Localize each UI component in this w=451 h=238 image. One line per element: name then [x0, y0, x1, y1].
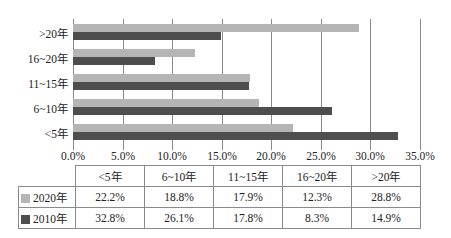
x-tick-label: 30.0% — [345, 150, 395, 162]
y-tick-label: >20年 — [0, 25, 68, 41]
bar-2010年 — [73, 132, 398, 140]
legend-2020: 2020年 — [19, 187, 76, 208]
table-cell: 22.2% — [76, 187, 145, 208]
y-tick-label: 16~20年 — [0, 50, 68, 66]
x-tick-label: 35.0% — [395, 150, 445, 162]
header-cell: <5年 — [76, 166, 145, 187]
blank-cell — [19, 166, 76, 187]
gridline — [321, 19, 322, 146]
table-cell: 17.9% — [214, 187, 283, 208]
x-tick-label: 20.0% — [246, 150, 296, 162]
table-cell: 32.8% — [76, 208, 145, 229]
x-tick-label: 5.0% — [98, 150, 148, 162]
y-tick-label: 6~10年 — [0, 100, 68, 116]
table-cell: 18.8% — [145, 187, 214, 208]
bar-2020年 — [73, 124, 293, 132]
header-cell: 16~20年 — [283, 166, 352, 187]
bar-chart: 0.0%5.0%10.0%15.0%20.0%25.0%30.0%35.0% >… — [0, 0, 451, 238]
x-tick-label: 25.0% — [296, 150, 346, 162]
header-cell: >20年 — [352, 166, 421, 187]
table-cell: 26.1% — [145, 208, 214, 229]
bar-2010年 — [73, 107, 332, 115]
table-cell: 14.9% — [352, 208, 421, 229]
x-tick-label: 15.0% — [197, 150, 247, 162]
table-cell: 12.3% — [283, 187, 352, 208]
gridline — [370, 19, 371, 146]
table-header-row: <5年 6~10年 11~15年 16~20年 >20年 — [19, 166, 421, 187]
table-row: 2020年 22.2% 18.8% 17.9% 12.3% 28.8% — [19, 187, 421, 208]
header-cell: 11~15年 — [214, 166, 283, 187]
legend-swatch-icon — [21, 194, 30, 203]
bar-2020年 — [73, 24, 359, 32]
bar-2010年 — [73, 32, 221, 40]
x-tick-label: 10.0% — [147, 150, 197, 162]
bar-2020年 — [73, 74, 250, 82]
table-row: 2010年 32.8% 26.1% 17.8% 8.3% 14.9% — [19, 208, 421, 229]
bar-2010年 — [73, 82, 249, 90]
table-cell: 28.8% — [352, 187, 421, 208]
table-cell: 17.8% — [214, 208, 283, 229]
bar-2020年 — [73, 49, 195, 57]
gridline — [420, 19, 421, 146]
y-tick-label: <5年 — [0, 125, 68, 141]
legend-2010: 2010年 — [19, 208, 76, 229]
legend-swatch-icon — [21, 215, 30, 224]
header-cell: 6~10年 — [145, 166, 214, 187]
x-tick-label: 0.0% — [48, 150, 98, 162]
legend-label: 2010年 — [33, 213, 67, 225]
legend-label: 2020年 — [33, 192, 67, 204]
bar-2010年 — [73, 57, 155, 65]
table-cell: 8.3% — [283, 208, 352, 229]
data-table: <5年 6~10年 11~15年 16~20年 >20年 2020年 22.2%… — [18, 165, 421, 229]
bar-2020年 — [73, 99, 259, 107]
y-tick-label: 11~15年 — [0, 75, 68, 91]
